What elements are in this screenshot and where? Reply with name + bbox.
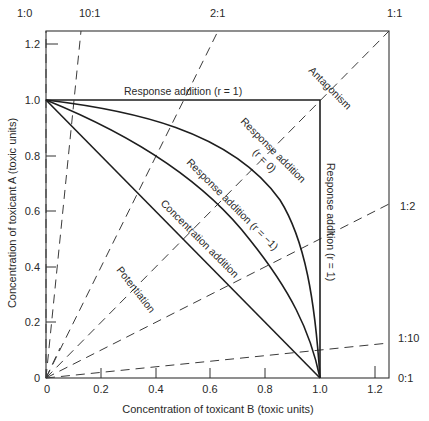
ray-label-10-1: 10:1 bbox=[79, 7, 100, 19]
svg-text:0.4: 0.4 bbox=[25, 261, 40, 273]
svg-text:1.2: 1.2 bbox=[25, 38, 40, 50]
y-tick-labels: 0 0.2 0.4 0.6 0.8 1.0 1.2 bbox=[25, 38, 40, 384]
label-response-addition-r0-line1: Response addition bbox=[239, 115, 309, 185]
svg-text:0: 0 bbox=[34, 372, 40, 384]
label-concentration-addition: Concentration addition bbox=[159, 197, 242, 280]
svg-text:0: 0 bbox=[44, 383, 50, 395]
svg-text:1.0: 1.0 bbox=[25, 94, 40, 106]
ray-10-1 bbox=[46, 31, 81, 378]
svg-text:1.0: 1.0 bbox=[312, 383, 327, 395]
svg-text:0.2: 0.2 bbox=[93, 383, 108, 395]
x-axis-title: Concentration of toxicant B (toxic units… bbox=[122, 403, 313, 415]
ray-label-1-1: 1:1 bbox=[387, 7, 402, 19]
x-tick-labels: 0 0.2 0.4 0.6 0.8 1.0 1.2 bbox=[44, 383, 383, 395]
label-potentiation: Potentiation bbox=[114, 264, 158, 315]
svg-text:0.6: 0.6 bbox=[202, 383, 217, 395]
ray-label-1-10: 1:10 bbox=[398, 332, 419, 344]
svg-text:1.2: 1.2 bbox=[367, 383, 382, 395]
svg-text:0.6: 0.6 bbox=[25, 205, 40, 217]
ray-1-10 bbox=[46, 343, 389, 378]
isobologram-chart: 0 0.2 0.4 0.6 0.8 1.0 1.2 0 0.2 0.4 0.6 … bbox=[0, 0, 429, 421]
svg-text:0.8: 0.8 bbox=[25, 150, 40, 162]
ray-label-0-1: 0:1 bbox=[398, 372, 413, 384]
y-axis-title: Concentration of toxicant A (toxic units… bbox=[6, 118, 18, 308]
svg-text:0.4: 0.4 bbox=[148, 383, 163, 395]
ray-label-1-0: 1:0 bbox=[17, 7, 32, 19]
label-response-addition-r1-top: Response addition (r = 1) bbox=[124, 85, 242, 97]
ray-label-1-2: 1:2 bbox=[400, 200, 415, 212]
ray-2-1 bbox=[46, 31, 218, 378]
ray-fan bbox=[46, 348, 60, 378]
label-response-addition-r1-side: Response addition (r = 1) bbox=[325, 163, 337, 281]
ray-label-2-1: 2:1 bbox=[210, 7, 225, 19]
label-antagonism: Antagonism bbox=[307, 64, 355, 112]
svg-text:0.2: 0.2 bbox=[25, 316, 40, 328]
svg-text:0.8: 0.8 bbox=[257, 383, 272, 395]
